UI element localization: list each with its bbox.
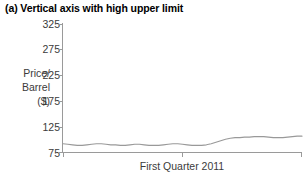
data-line-series [62, 23, 303, 154]
y-tick-label-325: 325 [14, 19, 60, 29]
y-tick-label-125: 125 [14, 122, 60, 132]
y-tick-label-225: 225 [14, 70, 60, 80]
price-per-barrel-line [63, 136, 302, 145]
y-tick-label-75: 75 [14, 148, 60, 158]
x-axis-title: First Quarter 2011 [62, 160, 302, 172]
y-tick-label-275: 275 [14, 44, 60, 54]
chart-figure: (a) Vertical axis with high upper limit … [0, 0, 306, 179]
y-tick-label-175: 175 [14, 96, 60, 106]
y-axis-tick-labels: 325 275 225 175 125 75 [12, 0, 60, 179]
